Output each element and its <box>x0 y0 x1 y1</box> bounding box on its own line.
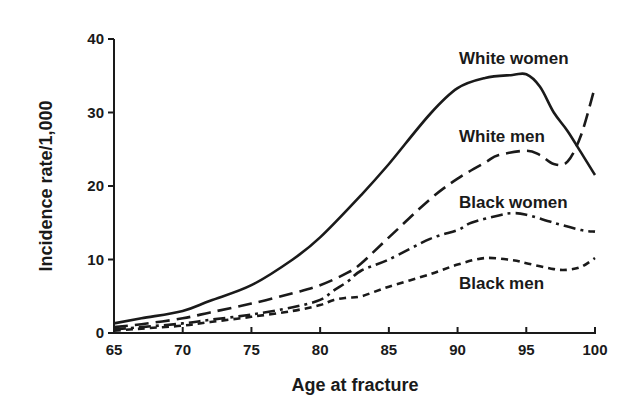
y-tick-label: 40 <box>87 30 104 47</box>
x-tick-label: 70 <box>174 341 191 358</box>
x-tick-label: 80 <box>312 341 329 358</box>
series-line-black-men <box>114 258 595 331</box>
x-tick-label: 95 <box>518 341 535 358</box>
label-white-women: White women <box>459 49 569 68</box>
label-white-men: White men <box>459 127 545 146</box>
y-tick-label: 0 <box>96 324 104 341</box>
x-ticks: 65707580859095100 <box>106 327 608 358</box>
series-labels: White women White men Black women Black … <box>459 49 569 293</box>
y-tick-label: 10 <box>87 251 104 268</box>
x-tick-label: 65 <box>106 341 123 358</box>
x-tick-label: 85 <box>381 341 398 358</box>
series-line-black-women <box>114 213 595 329</box>
label-black-men: Black men <box>459 274 544 293</box>
y-ticks: 010203040 <box>87 30 114 341</box>
x-tick-label: 100 <box>582 341 607 358</box>
x-axis-title: Age at fracture <box>291 375 418 395</box>
x-tick-label: 75 <box>243 341 260 358</box>
chart: 010203040 65707580859095100 White women … <box>0 0 637 412</box>
x-tick-label: 90 <box>449 341 466 358</box>
y-tick-label: 20 <box>87 177 104 194</box>
label-black-women: Black women <box>459 193 568 212</box>
y-tick-label: 30 <box>87 104 104 121</box>
y-axis-title: Incidence rate/1,000 <box>36 100 56 271</box>
